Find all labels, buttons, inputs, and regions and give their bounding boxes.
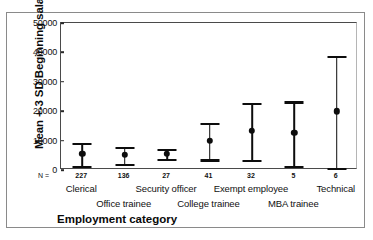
mean-marker [206, 138, 212, 144]
n-value: 136 [118, 172, 130, 179]
n-row: N = 22713627413256 [7, 172, 366, 183]
error-bar-upper-cap [115, 147, 134, 149]
n-value: 5 [291, 172, 295, 179]
error-bar-lower-cap [327, 168, 346, 170]
mean-marker [79, 151, 85, 157]
mean-marker [291, 129, 297, 135]
error-bar-lower-cap [115, 164, 134, 166]
error-bar-lower-cap [200, 159, 219, 161]
n-value: 32 [247, 172, 255, 179]
category-label: Security officer [136, 183, 197, 194]
y-tick-mark [61, 110, 64, 112]
plot-area: 01000020000300004000050000 [60, 22, 357, 169]
error-bar [200, 23, 220, 170]
error-bar-upper-cap [73, 143, 92, 145]
y-tick-mark [61, 81, 64, 83]
n-value: 41 [205, 172, 213, 179]
y-tick-label: 10000 [33, 136, 61, 146]
y-tick-label: 20000 [33, 106, 61, 116]
error-bar [115, 23, 135, 170]
chart-figure-frame: Mean +-3 SD Beginning salary 01000020000… [6, 12, 365, 228]
mean-marker [249, 128, 255, 134]
mean-marker [334, 108, 340, 114]
error-bar [242, 23, 262, 170]
error-bar [72, 23, 92, 170]
y-tick-label: 40000 [33, 47, 61, 57]
error-bar-lower-cap [242, 160, 261, 162]
error-bar-upper-cap [327, 56, 346, 58]
category-label: College trainee [177, 198, 239, 209]
error-bar [284, 23, 304, 170]
error-bar-lower-cap [285, 166, 304, 168]
y-tick-mark [61, 169, 64, 171]
mean-marker [121, 152, 127, 158]
n-value: 227 [75, 172, 87, 179]
y-tick-mark [61, 22, 64, 24]
x-axis-title: Employment category [57, 213, 177, 225]
y-tick-label: 50000 [33, 18, 61, 28]
error-bar-lower-cap [158, 159, 177, 161]
error-bar-upper-cap [242, 103, 261, 105]
category-label: Clerical [66, 183, 97, 194]
error-bar [157, 23, 177, 170]
category-label: Office trainee [96, 198, 151, 209]
error-bar-upper-cap [285, 101, 304, 103]
mean-marker [164, 150, 170, 156]
y-tick-mark [61, 52, 64, 54]
y-tick-mark [61, 140, 64, 142]
n-value: 27 [162, 172, 170, 179]
y-tick-label: 30000 [33, 77, 61, 87]
n-value: 6 [334, 172, 338, 179]
error-bar [327, 23, 347, 170]
error-bar-lower-cap [73, 166, 92, 168]
category-label: Technical [316, 183, 355, 194]
n-row-label: N = [38, 172, 49, 179]
error-bar-upper-cap [200, 123, 219, 125]
category-label: MBA trainee [268, 198, 319, 209]
category-label: Exempt employee [214, 183, 289, 194]
